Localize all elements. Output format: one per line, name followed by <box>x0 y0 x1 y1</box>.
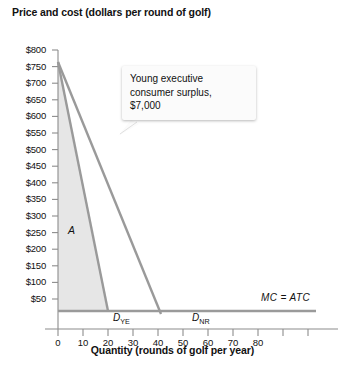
mc-atc-label: MC = ATC <box>261 292 310 303</box>
x-axis-ticks <box>58 329 308 336</box>
callout-line-3: $7,000 <box>130 99 248 113</box>
y-tick-label: $50 <box>0 293 46 304</box>
y-tick-label: $100 <box>0 276 46 287</box>
y-tick-label: $150 <box>0 260 46 271</box>
y-tick-label: $300 <box>0 210 46 221</box>
x-axis-title: Quantity (rounds of golf per year) <box>0 344 345 356</box>
y-tick-label: $600 <box>0 110 46 121</box>
y-tick-label: $400 <box>0 177 46 188</box>
y-tick-label: $700 <box>0 77 46 88</box>
y-tick-label: $800 <box>0 44 46 55</box>
area-a-label: A <box>68 224 75 236</box>
chart-container: Price and cost (dollars per round of gol… <box>0 0 345 378</box>
d-ye-subscript: YE <box>120 317 130 326</box>
y-tick-label: $750 <box>0 61 46 72</box>
y-tick-label: $650 <box>0 94 46 105</box>
y-tick-label: $500 <box>0 144 46 155</box>
demand-curve-nr-label: DNR <box>192 312 210 326</box>
y-tick-label: $250 <box>0 227 46 238</box>
y-tick-label: $450 <box>0 160 46 171</box>
y-tick-label: $550 <box>0 127 46 138</box>
y-tick-label: $350 <box>0 193 46 204</box>
demand-curve-ye-label: DYE <box>113 312 130 326</box>
callout-line-2: consumer surplus, <box>130 86 248 100</box>
d-nr-subscript: NR <box>199 317 209 326</box>
plot-area <box>0 0 345 378</box>
callout-line-1: Young executive <box>130 72 248 86</box>
y-axis-ticks <box>52 50 58 299</box>
y-tick-label: $200 <box>0 243 46 254</box>
consumer-surplus-callout: Young executive consumer surplus, $7,000 <box>122 66 256 120</box>
